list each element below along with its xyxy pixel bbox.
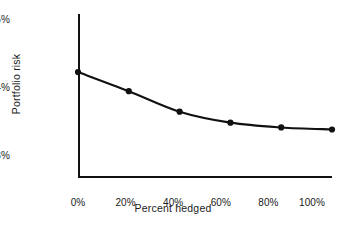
plot-area: 0% 20% 40% 60% 80% 100% — [78, 14, 332, 178]
data-point-20% — [126, 88, 132, 94]
data-point-0% — [75, 69, 81, 75]
data-point-100% — [329, 126, 335, 132]
y-axis-title: Portfolio risk — [10, 24, 22, 144]
data-point-80% — [278, 124, 284, 130]
data-point-60% — [227, 120, 233, 126]
x-axis-title: Percent hedged — [0, 202, 346, 214]
series-line — [78, 72, 332, 129]
y-tick-label-14: 14% — [0, 83, 10, 93]
data-point-40% — [177, 109, 183, 115]
series-markers — [75, 69, 335, 133]
y-tick-label-15: 15% — [0, 15, 10, 25]
chart-screenshot: Portfolio risk 15% 14% 13% 0% 20% 40% 60… — [0, 0, 346, 226]
y-tick-label-13: 13% — [0, 151, 10, 161]
series-plot — [78, 14, 332, 178]
